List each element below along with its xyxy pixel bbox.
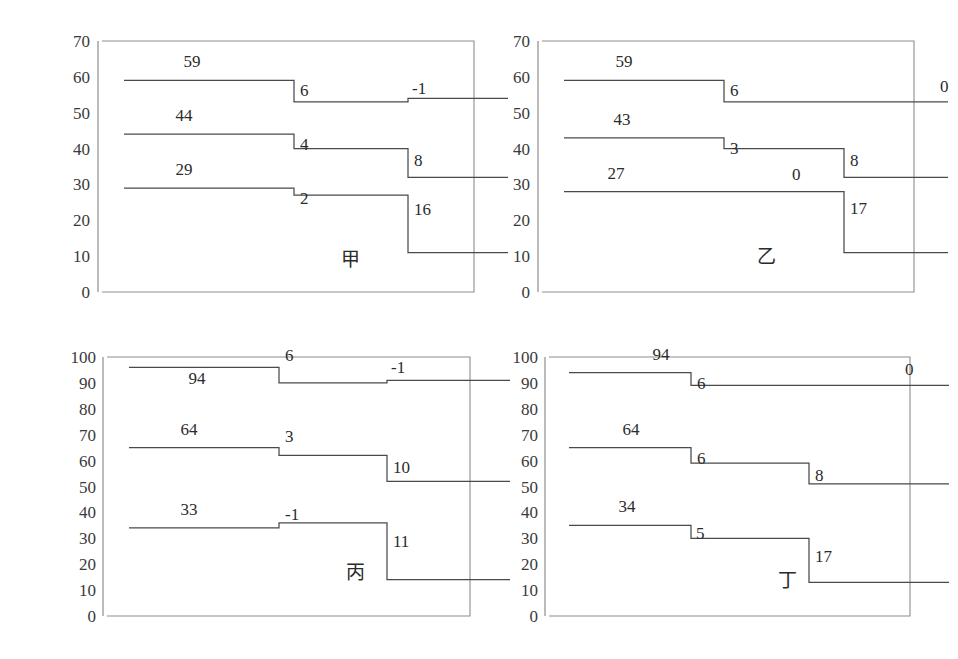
y-axis-tick-label: 70 [79,426,96,445]
step-delta-label: 8 [414,151,423,170]
y-axis-tick-label: 50 [73,104,90,123]
step-delta-label: 11 [393,532,409,551]
chart-panel-ding: 01020304050607080901009460646834517丁 [472,342,920,632]
y-axis-tick-label: 100 [513,348,539,367]
step-delta-label: 17 [815,547,833,566]
step-delta-label: 0 [940,77,949,96]
y-axis-tick-label: 50 [79,478,96,497]
plot-frame [107,357,470,616]
y-axis-tick-label: 30 [73,175,90,194]
step-delta-label: 8 [815,466,824,485]
panel-title: 丁 [778,569,797,591]
step-delta-label: -1 [412,79,426,98]
step-delta-label: 5 [696,524,705,543]
y-axis-tick-label: 30 [521,529,538,548]
y-axis-tick-label: 20 [521,555,538,574]
step-series-line [569,525,949,582]
step-delta-label: 3 [730,139,739,158]
series-start-value-label: 33 [181,500,198,519]
step-delta-label: 6 [285,346,294,365]
step-delta-label: 2 [300,189,309,208]
y-axis-tick-label: 40 [513,140,530,159]
y-axis-tick-label: 90 [79,374,96,393]
chart-svg-bing: 0102030405060708090100946-16431033-111丙 [32,342,480,632]
step-delta-label: 16 [414,200,431,219]
y-axis-tick-label: 40 [521,503,538,522]
chart-svg-ding: 01020304050607080901009460646834517丁 [472,342,920,632]
y-axis-tick-label: 0 [88,607,97,626]
y-axis-tick-label: 30 [513,175,530,194]
step-delta-label: -1 [391,358,405,377]
y-axis-tick-label: 80 [521,400,538,419]
y-axis-tick-label: 60 [513,68,530,87]
step-delta-label: 6 [300,81,309,100]
series-start-value-label: 27 [608,164,626,183]
y-axis-tick-label: 40 [73,140,90,159]
step-series-line [124,80,508,102]
step-series-line [569,448,949,484]
y-axis-tick-label: 20 [513,211,530,230]
y-axis-tick-label: 50 [513,104,530,123]
step-delta-label: 6 [697,449,706,468]
step-delta-label: 4 [300,135,309,154]
series-start-value-label: 59 [616,52,633,71]
series-start-value-label: 94 [189,369,207,388]
y-axis-tick-label: 80 [79,400,96,419]
y-axis-tick-label: 40 [79,503,96,522]
step-series-line [564,192,948,253]
y-axis-tick-label: 0 [82,283,91,302]
step-delta-label: 10 [393,458,410,477]
step-delta-label: 6 [697,374,706,393]
series-start-value-label: 59 [184,52,201,71]
step-delta-label: 17 [850,199,868,218]
y-axis-tick-label: 60 [521,452,538,471]
chart-svg-jia: 010203040506070596-1444829216甲 [40,28,480,304]
step-delta-label: 0 [792,165,801,184]
series-start-value-label: 29 [176,160,193,179]
y-axis-tick-label: 70 [73,32,90,51]
plot-frame [549,357,910,616]
y-axis-tick-label: 70 [521,426,538,445]
y-axis-tick-label: 0 [522,283,531,302]
y-axis-tick-label: 50 [521,478,538,497]
y-axis-tick-label: 0 [530,607,539,626]
step-series-line [564,80,948,102]
step-delta-label: 6 [730,81,739,100]
y-axis-tick-label: 10 [73,247,90,266]
step-series-line [124,188,508,253]
series-start-value-label: 64 [181,420,199,439]
y-axis-tick-label: 10 [521,581,538,600]
series-start-value-label: 64 [623,420,641,439]
series-start-value-label: 94 [653,345,671,364]
chart-panel-bing: 0102030405060708090100946-16431033-111丙 [32,342,480,632]
step-series-line [129,523,510,580]
y-axis-tick-label: 20 [73,211,90,230]
step-series-line [569,373,949,386]
y-axis-tick-label: 60 [79,452,96,471]
step-delta-label: 3 [285,427,294,446]
series-start-value-label: 43 [614,110,631,129]
panel-title: 甲 [341,248,360,270]
series-start-value-label: 34 [619,497,637,516]
y-axis-tick-label: 90 [521,374,538,393]
y-axis-tick-label: 60 [73,68,90,87]
panel-title: 丙 [346,561,365,583]
y-axis-tick-label: 10 [513,247,530,266]
y-axis-tick-label: 20 [79,555,96,574]
y-axis-tick-label: 100 [71,348,97,367]
step-delta-label: 0 [905,360,914,379]
step-delta-label: 8 [850,151,859,170]
y-axis-tick-label: 30 [79,529,96,548]
series-start-value-label: 44 [176,106,194,125]
step-series-line [129,367,510,383]
step-delta-label: -1 [285,505,299,524]
chart-svg-yi: 0102030405060705960433827017乙 [480,28,920,304]
chart-panel-jia: 010203040506070596-1444829216甲 [40,28,480,304]
step-chart-figure: 010203040506070596-1444829216甲 010203040… [0,0,958,659]
y-axis-tick-label: 10 [79,581,96,600]
y-axis-tick-label: 70 [513,32,530,51]
step-series-line [129,448,510,482]
chart-panel-yi: 0102030405060705960433827017乙 [480,28,920,304]
panel-title: 乙 [757,245,776,267]
